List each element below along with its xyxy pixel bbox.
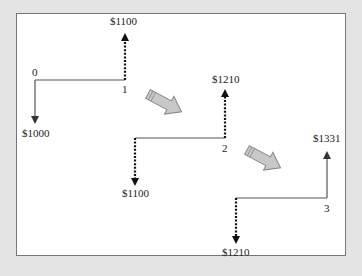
outflow-value-1: $1100 <box>122 187 150 199</box>
inflow-value-3: $1331 <box>313 132 341 144</box>
transition-arrow-1 <box>143 85 186 120</box>
timeline-segment-2: 2 $1100 $1210 <box>122 73 240 199</box>
inflow-value-2: $1210 <box>212 73 240 85</box>
period-label-1: 1 <box>122 83 128 95</box>
inflow-value-1: $1100 <box>110 15 138 27</box>
outflow-value-0: $1000 <box>22 127 50 139</box>
period-label-2: 2 <box>222 142 228 154</box>
period-label-3: 3 <box>324 202 330 214</box>
cash-flow-diagram: 0 1 $1000 $1100 2 $1100 $1210 3 $1210 $1… <box>0 0 362 276</box>
timeline-segment-1: 0 1 $1000 $1100 <box>22 15 138 139</box>
transition-arrow-2 <box>242 141 285 176</box>
timeline-segment-3: 3 $1210 $1331 <box>222 132 341 258</box>
period-label-0: 0 <box>32 66 38 78</box>
outflow-value-2: $1210 <box>222 246 250 258</box>
